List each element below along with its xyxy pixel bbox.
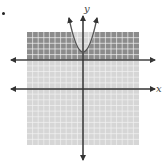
inequality-graph <box>0 0 165 165</box>
x-axis-label: x <box>156 84 162 94</box>
y-axis-label: y <box>84 4 90 14</box>
